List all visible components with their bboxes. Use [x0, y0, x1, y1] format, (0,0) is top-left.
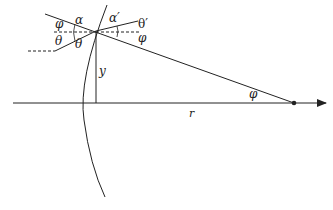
- label-r: r: [189, 108, 194, 119]
- label-y: y: [99, 65, 106, 77]
- label-alpha: α: [75, 14, 83, 26]
- label-theta-left-upper: θ: [55, 35, 62, 47]
- label-theta-left-lower: θ: [75, 38, 82, 50]
- label-phi-left: φ: [55, 18, 63, 30]
- label-alpha-prime: α′: [109, 12, 120, 24]
- label-phi-right: φ: [138, 32, 146, 44]
- curved-surface: [83, 5, 107, 197]
- label-theta-prime: θ′: [138, 18, 148, 30]
- label-phi-axis: φ: [249, 88, 257, 100]
- diagram-graphics: [0, 0, 333, 210]
- diagram: φ α θ θ α′ θ′ φ y φ r: [0, 0, 333, 210]
